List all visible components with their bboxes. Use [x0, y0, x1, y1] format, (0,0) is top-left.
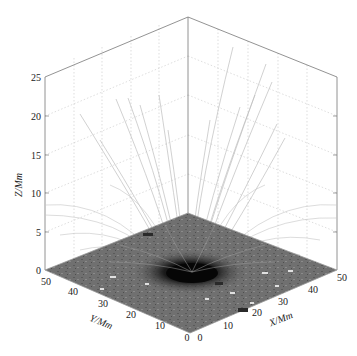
svg-text:10: 10 — [155, 320, 165, 331]
svg-text:50: 50 — [337, 272, 347, 283]
svg-text:5: 5 — [36, 227, 41, 238]
svg-text:40: 40 — [68, 286, 78, 297]
svg-text:25: 25 — [31, 72, 41, 83]
svg-text:15: 15 — [31, 150, 41, 161]
svg-text:10: 10 — [223, 320, 233, 331]
svg-text:0: 0 — [198, 332, 203, 343]
svg-text:30: 30 — [98, 298, 108, 309]
svg-text:10: 10 — [31, 188, 41, 199]
y-axis-title: Y/Mm — [88, 312, 114, 331]
x-axis-title: X/Mm — [266, 309, 294, 329]
svg-text:40: 40 — [308, 284, 318, 295]
svg-text:20: 20 — [252, 307, 262, 318]
magnetogram-floor — [45, 213, 337, 333]
svg-text:20: 20 — [31, 111, 41, 122]
field-line-plot: 25 20 15 10 5 0 Z/Mm 50 40 30 20 10 0 Y/… — [0, 0, 357, 356]
svg-text:30: 30 — [278, 296, 288, 307]
z-axis-title: Z/Mm — [13, 173, 24, 197]
svg-text:50: 50 — [41, 276, 51, 287]
svg-text:0: 0 — [36, 265, 41, 276]
svg-text:0: 0 — [185, 332, 190, 343]
z-axis-labels: 25 20 15 10 5 0 — [31, 72, 41, 276]
svg-text:20: 20 — [126, 309, 136, 320]
